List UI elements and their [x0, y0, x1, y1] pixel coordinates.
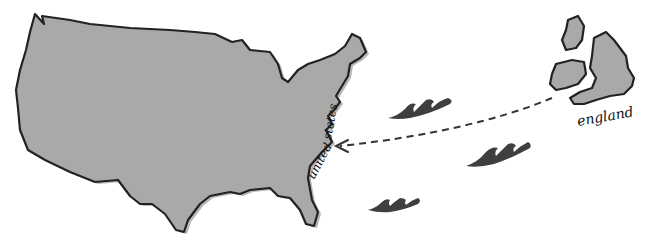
wave-icon — [466, 142, 531, 167]
wave-icon — [388, 98, 452, 119]
uk-region: england — [550, 16, 635, 129]
wave-icon — [368, 198, 420, 212]
map-canvas: united states england — [0, 0, 656, 242]
england-label: england — [576, 103, 635, 129]
scotland-islands-shape — [562, 16, 584, 50]
ireland-shape — [550, 60, 586, 90]
illustrated-map: united states england — [0, 0, 656, 242]
usa-region: united states — [16, 14, 369, 234]
